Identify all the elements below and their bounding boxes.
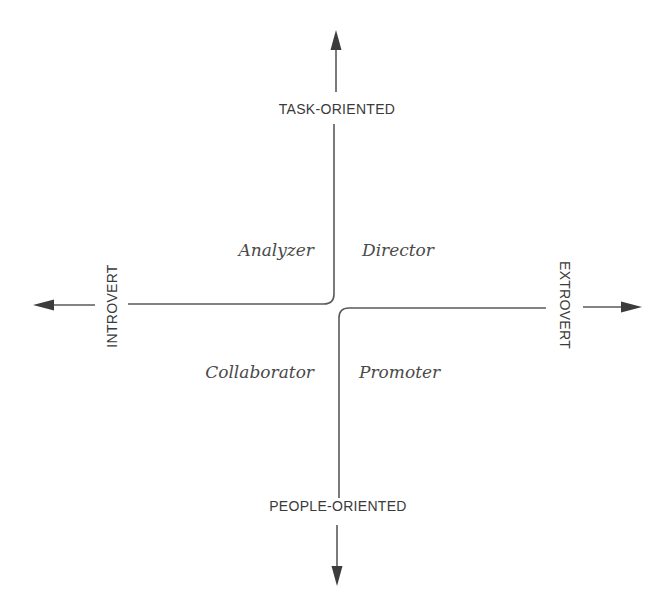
axis-label-people-oriented: PEOPLE-ORIENTED bbox=[269, 498, 407, 514]
axis-label-task-oriented: TASK-ORIENTED bbox=[279, 101, 395, 117]
quadrant-label-analyzer: Analyzer bbox=[238, 240, 314, 260]
quadrant-label-collaborator: Collaborator bbox=[205, 362, 314, 382]
arrow-right bbox=[583, 302, 642, 313]
axis-lower-right-corner bbox=[339, 308, 546, 498]
arrow-up bbox=[331, 30, 342, 92]
axis-upper-left-corner bbox=[128, 124, 334, 304]
quadrant-label-promoter: Promoter bbox=[359, 362, 440, 382]
arrowhead-right-icon bbox=[621, 302, 642, 313]
arrowhead-down-icon bbox=[332, 566, 343, 586]
arrow-left bbox=[33, 300, 95, 311]
axis-label-extrovert: EXTROVERT bbox=[557, 261, 573, 349]
arrowhead-up-icon bbox=[331, 30, 342, 50]
axis-label-introvert: INTROVERT bbox=[104, 264, 120, 347]
quadrant-label-director: Director bbox=[362, 240, 434, 260]
arrow-down bbox=[332, 525, 343, 586]
arrowhead-left-icon bbox=[33, 300, 54, 311]
